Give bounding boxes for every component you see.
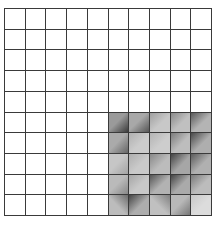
shaded-cell — [171, 133, 192, 154]
empty-cell — [88, 175, 109, 196]
empty-cell — [46, 71, 67, 92]
empty-cell — [88, 133, 109, 154]
empty-cell — [109, 71, 130, 92]
shaded-cell — [191, 113, 212, 134]
empty-cell — [26, 50, 47, 71]
shaded-cell — [129, 175, 150, 196]
empty-cell — [46, 92, 67, 113]
shaded-cell — [129, 113, 150, 134]
empty-cell — [5, 30, 26, 51]
empty-cell — [88, 195, 109, 216]
empty-cell — [67, 154, 88, 175]
empty-cell — [67, 50, 88, 71]
empty-cell — [46, 113, 67, 134]
empty-cell — [171, 92, 192, 113]
shaded-cell — [171, 113, 192, 134]
shaded-cell — [150, 113, 171, 134]
empty-cell — [5, 154, 26, 175]
shaded-cell — [171, 195, 192, 216]
empty-cell — [88, 71, 109, 92]
empty-cell — [109, 9, 130, 30]
shaded-cell — [171, 154, 192, 175]
shaded-cell — [150, 195, 171, 216]
empty-cell — [88, 30, 109, 51]
empty-cell — [5, 92, 26, 113]
shaded-cell — [191, 195, 212, 216]
empty-cell — [67, 30, 88, 51]
shaded-cell — [109, 154, 130, 175]
empty-cell — [150, 92, 171, 113]
empty-cell — [26, 175, 47, 196]
empty-cell — [5, 9, 26, 30]
empty-cell — [129, 92, 150, 113]
empty-cell — [150, 50, 171, 71]
empty-cell — [26, 92, 47, 113]
empty-cell — [191, 71, 212, 92]
empty-cell — [26, 133, 47, 154]
shaded-cell — [109, 175, 130, 196]
empty-cell — [26, 71, 47, 92]
empty-cell — [171, 9, 192, 30]
empty-cell — [171, 50, 192, 71]
empty-cell — [46, 195, 67, 216]
empty-cell — [67, 175, 88, 196]
empty-cell — [129, 9, 150, 30]
shaded-cell — [129, 195, 150, 216]
shaded-cell — [109, 195, 130, 216]
empty-cell — [46, 30, 67, 51]
empty-cell — [46, 154, 67, 175]
empty-cell — [5, 133, 26, 154]
empty-cell — [46, 175, 67, 196]
empty-cell — [88, 92, 109, 113]
empty-cell — [5, 175, 26, 196]
empty-cell — [109, 92, 130, 113]
shaded-cell — [109, 133, 130, 154]
empty-cell — [191, 50, 212, 71]
empty-cell — [88, 154, 109, 175]
shaded-cell — [109, 113, 130, 134]
empty-cell — [191, 9, 212, 30]
empty-cell — [26, 113, 47, 134]
empty-cell — [67, 92, 88, 113]
shaded-cell — [150, 154, 171, 175]
empty-cell — [129, 71, 150, 92]
shaded-cell — [150, 133, 171, 154]
empty-cell — [109, 50, 130, 71]
empty-cell — [26, 9, 47, 30]
empty-cell — [191, 92, 212, 113]
empty-cell — [26, 30, 47, 51]
empty-cell — [46, 50, 67, 71]
empty-cell — [191, 30, 212, 51]
empty-cell — [171, 71, 192, 92]
empty-cell — [129, 50, 150, 71]
empty-cell — [67, 195, 88, 216]
shaded-cell — [129, 133, 150, 154]
empty-cell — [88, 113, 109, 134]
empty-cell — [26, 154, 47, 175]
empty-cell — [5, 71, 26, 92]
empty-cell — [67, 9, 88, 30]
empty-cell — [5, 113, 26, 134]
empty-cell — [67, 71, 88, 92]
shaded-cell — [191, 175, 212, 196]
empty-cell — [171, 30, 192, 51]
empty-cell — [109, 30, 130, 51]
empty-cell — [88, 9, 109, 30]
shaded-cell — [171, 175, 192, 196]
empty-cell — [150, 9, 171, 30]
shaded-cell — [129, 154, 150, 175]
empty-cell — [5, 195, 26, 216]
empty-cell — [88, 50, 109, 71]
empty-cell — [67, 133, 88, 154]
empty-cell — [46, 9, 67, 30]
square-grid — [4, 8, 212, 216]
empty-cell — [46, 133, 67, 154]
shaded-cell — [191, 154, 212, 175]
shaded-cell — [150, 175, 171, 196]
shaded-cell — [191, 133, 212, 154]
empty-cell — [150, 30, 171, 51]
empty-cell — [26, 195, 47, 216]
empty-cell — [67, 113, 88, 134]
empty-cell — [150, 71, 171, 92]
empty-cell — [129, 30, 150, 51]
